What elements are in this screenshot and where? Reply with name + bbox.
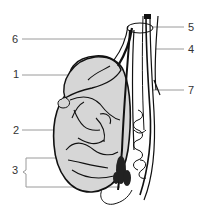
label-5: 5: [188, 22, 194, 33]
label-4: 4: [188, 44, 194, 55]
label-6: 6: [12, 34, 18, 45]
ductus-deferens: [140, 14, 160, 200]
label-3: 3: [12, 165, 18, 176]
fold: [58, 98, 70, 108]
tail-appendage: [101, 190, 132, 204]
epididymis: [134, 110, 147, 178]
testis-illustration: [0, 0, 204, 217]
brace-3: [23, 158, 30, 187]
label-2: 2: [13, 125, 19, 136]
label-7: 7: [188, 85, 194, 96]
label-1: 1: [13, 69, 19, 80]
anatomy-diagram: 6 1 2 3 5 4 7: [0, 0, 204, 217]
